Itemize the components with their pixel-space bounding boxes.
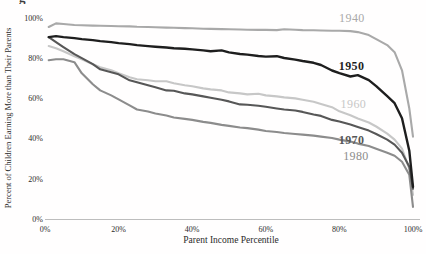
x-tick-label-20%: 20%: [111, 225, 126, 234]
x-tick-label-0%: 0%: [40, 225, 51, 234]
series-label-1940: 1940: [339, 11, 365, 25]
line-chart-canvas: 0%20%40%60%80%100%0%20%40%60%80%100%1940…: [0, 0, 426, 254]
x-tick-label-80%: 80%: [332, 225, 347, 234]
x-tick-label-60%: 60%: [258, 225, 273, 234]
x-axis-title: Parent Income Percentile: [45, 235, 417, 245]
y-tick-label-0%: 0%: [32, 215, 43, 224]
series-label-1960: 1960: [341, 97, 367, 111]
x-tick-label-100%: 100%: [404, 225, 423, 234]
y-tick-label-20%: 20%: [28, 175, 43, 184]
x-tick-label-40%: 40%: [185, 225, 200, 234]
series-label-1950: 1950: [339, 59, 365, 73]
series-label-1980: 1980: [343, 149, 369, 163]
y-tick-label-100%: 100%: [24, 14, 43, 23]
y-tick-label-60%: 60%: [28, 94, 43, 103]
mobility-line-chart-figure: g Percent of Children Earning More than …: [0, 0, 426, 254]
y-tick-label-80%: 80%: [28, 54, 43, 63]
y-tick-label-40%: 40%: [28, 134, 43, 143]
series-label-1970: 1970: [339, 133, 365, 147]
